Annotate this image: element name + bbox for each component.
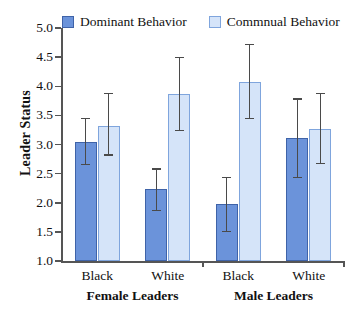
error-bar (297, 99, 298, 177)
y-axis-tick-label: 1.0 (36, 253, 53, 269)
error-bar-cap (316, 93, 325, 94)
plot-area: 1.01.52.02.53.03.54.04.55.0 (62, 28, 344, 261)
error-bar-cap (175, 57, 184, 58)
x-axis-group-label: Female Leaders (87, 288, 179, 304)
error-bar (226, 178, 227, 232)
legend-item-dominant: Dominant Behavior (62, 15, 187, 29)
y-axis-tick (55, 202, 61, 204)
legend-label-communal: Commnual Behavior (227, 15, 340, 29)
y-axis-tick-label: 2.5 (36, 166, 53, 182)
y-axis-line (61, 28, 63, 261)
y-axis-tick-label: 1.5 (36, 224, 53, 240)
legend-label-dominant: Dominant Behavior (80, 15, 187, 29)
error-bar-cap (245, 44, 254, 45)
y-axis-tick-label: 4.0 (36, 78, 53, 94)
y-axis-tick (55, 144, 61, 146)
y-axis-tick (55, 231, 61, 233)
error-bar-cap (81, 164, 90, 165)
y-axis-tick (55, 86, 61, 88)
error-bar (108, 93, 109, 155)
error-bar-cap (293, 177, 302, 178)
x-axis-group-label: Male Leaders (234, 288, 313, 304)
error-bar-cap (245, 118, 254, 119)
legend-swatch-dominant-icon (62, 16, 74, 28)
error-bar (85, 118, 86, 165)
y-axis-tick-label: 3.5 (36, 107, 53, 123)
error-bar-cap (293, 98, 302, 99)
bar-chart: Dominant Behavior Commnual Behavior Lead… (0, 0, 352, 312)
legend-swatch-communal-icon (209, 16, 221, 28)
x-axis-tick (343, 261, 345, 267)
error-bar-cap (152, 168, 161, 169)
error-bar (156, 169, 157, 210)
y-axis-tick-label: 3.0 (36, 137, 53, 153)
x-axis-tick (202, 261, 204, 267)
x-axis-category-label: White (151, 268, 184, 284)
y-axis-tick (55, 260, 61, 262)
error-bar-cap (104, 93, 113, 94)
y-axis-title: Leader Status (18, 63, 34, 203)
x-axis-category-label: Black (223, 268, 255, 284)
legend-item-communal: Commnual Behavior (209, 15, 340, 29)
error-bar-cap (222, 177, 231, 178)
error-bar-cap (104, 154, 113, 155)
y-axis-tick (55, 27, 61, 29)
y-axis-tick-label: 2.0 (36, 195, 53, 211)
y-axis-tick (55, 173, 61, 175)
error-bar (320, 93, 321, 163)
x-axis-category-label: Black (82, 268, 114, 284)
error-bar (179, 57, 180, 130)
y-axis-tick-label: 4.5 (36, 49, 53, 65)
y-axis-tick-label: 5.0 (36, 20, 53, 36)
error-bar-cap (222, 231, 231, 232)
y-axis-tick (55, 56, 61, 58)
error-bar-cap (152, 210, 161, 211)
error-bar-cap (81, 118, 90, 119)
error-bar-cap (316, 163, 325, 164)
error-bar-cap (175, 130, 184, 131)
error-bar (249, 44, 250, 118)
x-axis-category-label: White (292, 268, 325, 284)
y-axis-tick (55, 115, 61, 117)
